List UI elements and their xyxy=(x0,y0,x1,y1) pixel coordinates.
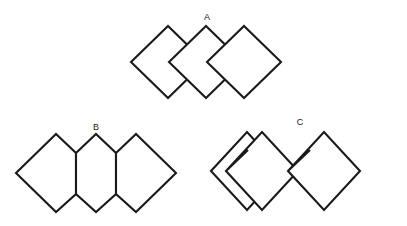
figure-label-b: B xyxy=(93,122,99,132)
figure-label-c: C xyxy=(297,117,304,127)
geometric-figure-canvas: A B C xyxy=(0,0,407,226)
figure-label-a: A xyxy=(204,12,210,22)
